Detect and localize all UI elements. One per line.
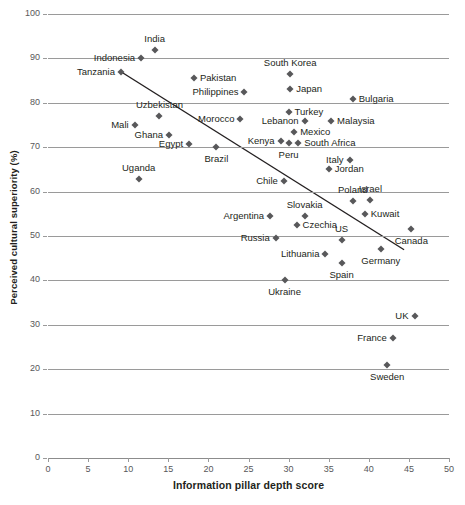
y-gridline [48,147,449,148]
data-point-label: Bulgaria [359,94,394,104]
data-point-label: Tanzania [77,67,115,77]
data-point-label: Uzbekistan [136,100,183,110]
x-tick-label: 50 [437,465,461,474]
y-tick-label: 70 [6,142,40,151]
data-point-label: Argentina [223,211,264,221]
y-tick-mark [43,369,47,370]
data-point-label: Canada [395,236,428,246]
x-tick-mark [449,458,450,462]
y-tick-mark [43,147,47,148]
data-point-label: Slovakia [287,200,323,210]
x-tick-mark [249,458,250,462]
y-tick-label: 0 [6,453,40,462]
data-point-label: Mexico [300,127,330,137]
data-point-label: Indonesia [94,53,135,63]
data-point-label: Mali [111,120,128,130]
y-tick-mark [43,103,47,104]
y-tick-label: 10 [6,409,40,418]
data-point-label: Uganda [122,163,155,173]
scatter-chart: IndiaIndonesiaTanzaniaPakistanPhilippine… [0,0,465,505]
y-tick-label: 90 [6,53,40,62]
x-tick-label: 5 [76,465,100,474]
data-point-label: Peru [279,150,299,160]
data-point-label: Lebanon [262,116,299,126]
data-point-label: Ukraine [268,287,301,297]
data-point-label: Philippines [193,87,239,97]
data-point-label: Czechia [303,220,337,230]
data-point-label: India [144,34,165,44]
data-point-label: Chile [256,176,278,186]
x-tick-label: 10 [116,465,140,474]
y-tick-mark [43,58,47,59]
data-point-label: Kenya [248,136,275,146]
data-point-label: Japan [296,84,322,94]
data-point-label: Jordan [335,164,364,174]
data-point-label: Lithuania [281,249,320,259]
x-axis-title: Information pillar depth score [48,479,449,491]
y-tick-mark [43,14,47,15]
y-tick-label: 20 [6,364,40,373]
data-point-label: Morocco [198,114,234,124]
y-gridline [48,192,449,193]
x-tick-mark [208,458,209,462]
data-point-label: UK [395,311,408,321]
y-tick-label: 30 [6,320,40,329]
data-point-label: Turkey [295,107,324,117]
plot-area: IndiaIndonesiaTanzaniaPakistanPhilippine… [48,14,449,458]
data-point-label: Kuwait [371,209,400,219]
y-axis-title: Perceived cultural superiority (%) [8,98,19,358]
y-tick-label: 80 [6,98,40,107]
y-tick-mark [43,280,47,281]
x-tick-label: 15 [156,465,180,474]
data-point-label: Israel [359,184,382,194]
y-gridline [48,414,449,415]
x-tick-label: 0 [36,465,60,474]
data-point-label: Spain [329,270,353,280]
x-tick-mark [409,458,410,462]
y-tick-label: 100 [6,9,40,18]
x-tick-label: 40 [357,465,381,474]
y-tick-mark [43,236,47,237]
x-tick-mark [168,458,169,462]
data-point-label: Malaysia [337,116,375,126]
y-tick-mark [43,192,47,193]
data-point-label: US [335,224,348,234]
data-point-label: France [357,333,387,343]
y-gridline [48,280,449,281]
x-tick-mark [289,458,290,462]
data-point-label: Brazil [205,154,229,164]
data-point-label: Egypt [159,139,183,149]
data-point-label: Sweden [370,372,404,382]
data-point-label: Germany [361,256,400,266]
data-point-label: Russia [241,233,270,243]
y-tick-label: 60 [6,187,40,196]
x-tick-mark [128,458,129,462]
data-point-label: South Korea [264,58,317,68]
y-gridline [48,14,449,15]
y-tick-mark [43,458,47,459]
y-tick-mark [43,325,47,326]
x-tick-label: 25 [237,465,261,474]
y-gridline [48,325,449,326]
x-tick-mark [329,458,330,462]
x-tick-label: 20 [196,465,220,474]
data-point-label: Pakistan [200,73,236,83]
x-tick-label: 35 [317,465,341,474]
y-tick-mark [43,414,47,415]
data-point-label: South Africa [304,138,355,148]
x-tick-label: 45 [397,465,421,474]
x-tick-mark [369,458,370,462]
x-tick-mark [48,458,49,462]
y-tick-label: 40 [6,275,40,284]
x-tick-mark [88,458,89,462]
y-tick-label: 50 [6,231,40,240]
x-tick-label: 30 [277,465,301,474]
